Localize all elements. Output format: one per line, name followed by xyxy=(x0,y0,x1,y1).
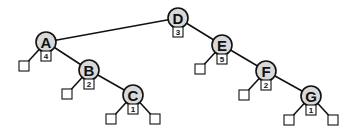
leaf-node xyxy=(239,90,249,100)
leaf-node xyxy=(284,115,294,125)
node-label: B xyxy=(84,62,95,79)
tree-nodes: D3A4B2C1E5F2G1 xyxy=(36,8,321,115)
leaf-node xyxy=(150,114,160,124)
node-label: G xyxy=(305,88,317,105)
tree-node-F: F2 xyxy=(256,61,276,90)
binary-tree-diagram: D3A4B2C1E5F2G1 xyxy=(0,0,358,133)
badge-value: 3 xyxy=(176,28,181,37)
node-label: F xyxy=(261,63,270,80)
tree-node-B: B2 xyxy=(79,60,99,89)
leaf-node xyxy=(62,89,72,99)
tree-node-G: G1 xyxy=(301,86,321,115)
badge-value: 2 xyxy=(264,81,269,90)
tree-node-E: E5 xyxy=(212,35,232,64)
leaf-node xyxy=(19,61,29,71)
node-label: A xyxy=(41,34,52,51)
badge-value: 5 xyxy=(220,55,225,64)
badge-value: 1 xyxy=(309,106,314,115)
leaf-node xyxy=(106,114,116,124)
leaf-node xyxy=(328,115,338,125)
tree-leaves xyxy=(19,61,338,125)
tree-node-C: C1 xyxy=(123,85,143,114)
badge-value: 1 xyxy=(131,105,136,114)
tree-node-A: A4 xyxy=(36,32,56,61)
tree-node-D: D3 xyxy=(168,8,188,37)
node-label: C xyxy=(128,87,139,104)
node-label: E xyxy=(217,37,227,54)
leaf-node xyxy=(195,64,205,74)
badge-value: 4 xyxy=(44,52,49,61)
badge-value: 2 xyxy=(87,80,92,89)
edge-D-A xyxy=(46,18,178,42)
node-label: D xyxy=(173,10,184,27)
